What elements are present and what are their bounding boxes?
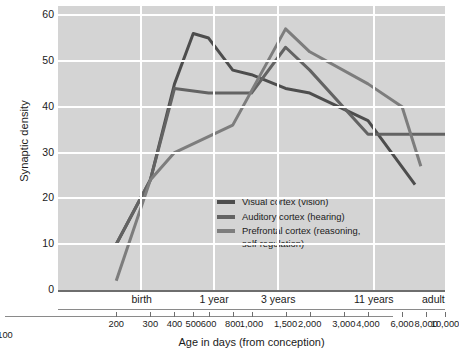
- gridline-horizontal: [58, 152, 445, 154]
- legend-item: Prefrontal cortex (reasoning, self-regul…: [217, 225, 360, 250]
- day-tick-8000: [426, 312, 427, 317]
- gridline-horizontal: [58, 14, 445, 16]
- day-tick-600: [209, 312, 210, 317]
- gridline-vertical: [373, 6, 375, 290]
- day-tick-1500: [286, 312, 287, 317]
- stage-label-11-years: 11 years: [354, 293, 394, 305]
- y-tick-label-40: 40: [30, 100, 54, 112]
- legend-label-auditory-cortex: Auditory cortex (hearing): [242, 211, 345, 224]
- day-tick-3000: [344, 312, 345, 317]
- x-tick-label-6000: 6,000: [390, 319, 413, 329]
- day-tick-axis: 2003004005006008001,0001,5002,0003,0004,…: [0, 310, 446, 334]
- legend-item: Auditory cortex (hearing): [217, 211, 360, 224]
- stage-label-1-year: 1 year: [199, 293, 228, 305]
- gridline-horizontal: [58, 106, 445, 108]
- stage-label-3-years: 3 years: [261, 293, 295, 305]
- day-tick-6000: [402, 312, 403, 317]
- x-tick-label-100: 100: [0, 330, 13, 340]
- stage-marker-band: birth1 year3 years11 yearsadult: [58, 292, 445, 309]
- x-tick-label-10000: 10,000: [431, 319, 459, 329]
- x-tick-label-1500: 1,500: [274, 319, 297, 329]
- gridline-vertical: [213, 6, 215, 290]
- x-tick-label-1000: 1,000: [240, 319, 263, 329]
- gridline-horizontal: [58, 197, 445, 199]
- y-tick-label-30: 30: [30, 146, 54, 158]
- x-tick-label-4000: 4,000: [356, 319, 379, 329]
- day-tick-800: [233, 312, 234, 317]
- day-tick-400: [174, 312, 175, 317]
- day-tick-500: [193, 312, 194, 317]
- x-tick-label-800: 800: [225, 319, 241, 329]
- day-axis-rule: [5, 316, 393, 317]
- plot-area: Visual cortex (vision) Auditory cortex (…: [58, 6, 445, 290]
- stage-label-birth: birth: [131, 293, 151, 305]
- gridline-horizontal: [58, 243, 445, 245]
- y-axis-title: Synaptic density: [18, 41, 30, 241]
- y-tick-label-0: 0: [30, 283, 54, 295]
- y-tick-label-10: 10: [30, 237, 54, 249]
- x-tick-label-3000: 3,000: [332, 319, 355, 329]
- stage-label-adult: adult: [422, 293, 445, 305]
- day-tick-1000: [252, 312, 253, 317]
- legend-label-prefrontal-cortex: Prefrontal cortex (reasoning, self-regul…: [242, 225, 360, 250]
- x-tick-label-500: 500: [185, 319, 201, 329]
- x-tick-label-600: 600: [201, 319, 217, 329]
- x-tick-label-400: 400: [167, 319, 183, 329]
- legend-swatch-prefrontal-cortex: [217, 229, 235, 233]
- x-tick-label-2000: 2,000: [298, 319, 321, 329]
- x-tick-label-200: 200: [108, 319, 124, 329]
- y-tick-label-50: 50: [30, 54, 54, 66]
- day-tick-300: [150, 312, 151, 317]
- gridline-horizontal: [58, 60, 445, 62]
- day-tick-2000: [310, 312, 311, 317]
- day-tick-4000: [368, 312, 369, 317]
- day-tick-200: [116, 312, 117, 317]
- gridline-vertical: [140, 6, 142, 290]
- legend-swatch-auditory-cortex: [217, 215, 235, 219]
- legend-swatch-visual-cortex: [217, 200, 235, 204]
- gridline-vertical: [277, 6, 279, 290]
- y-tick-label-20: 20: [30, 191, 54, 203]
- x-tick-label-300: 300: [143, 319, 159, 329]
- y-tick-label-60: 60: [30, 8, 54, 20]
- x-axis-title: Age in days (from conception): [58, 336, 445, 348]
- day-tick-10000: [445, 312, 446, 317]
